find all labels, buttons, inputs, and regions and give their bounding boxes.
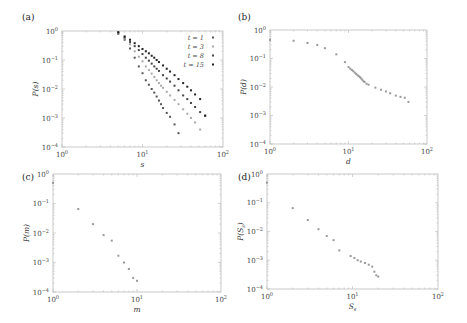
- data-point: [182, 94, 184, 96]
- panel-label: (c): [22, 172, 34, 182]
- y-axis-label: P(d): [239, 79, 248, 96]
- data-point: [177, 132, 179, 134]
- data-point: [153, 92, 155, 94]
- tick-label: 10−2: [42, 84, 58, 94]
- data-point: [190, 117, 192, 119]
- tick-label: 10−3: [250, 110, 266, 120]
- tick-label: 10−2: [250, 82, 266, 92]
- data-point: [186, 86, 188, 88]
- legend-marker: [212, 37, 214, 39]
- tick-label: 102: [421, 146, 433, 156]
- data-point: [158, 70, 160, 72]
- data-point: [134, 57, 136, 59]
- data-point: [142, 60, 144, 62]
- data-point: [190, 89, 192, 91]
- series-0: [266, 182, 379, 278]
- data-point: [123, 262, 125, 264]
- series-0: [52, 182, 138, 282]
- tick-label: 10−4: [250, 139, 266, 149]
- tick-label: 10−4: [42, 142, 58, 152]
- data-point: [138, 45, 140, 47]
- tick-label: 101: [342, 146, 354, 156]
- y-axis-label: P(Ss): [236, 222, 246, 242]
- data-point: [129, 47, 131, 49]
- data-point: [333, 239, 335, 241]
- data-point: [166, 91, 168, 93]
- data-point: [166, 78, 168, 80]
- panel-label: (a): [22, 12, 34, 22]
- legend-label: t = 15: [184, 61, 204, 69]
- data-point: [177, 78, 179, 80]
- tick-label: 10−3: [42, 113, 58, 123]
- plot-frame: [53, 174, 221, 292]
- tick-label: 100: [56, 149, 68, 159]
- data-point: [366, 83, 368, 85]
- data-point: [389, 92, 391, 94]
- data-point: [160, 85, 162, 87]
- tick-label: 10−1: [42, 55, 58, 65]
- data-point: [142, 53, 144, 55]
- tick-label: 10−2: [33, 228, 49, 238]
- tick-label: 100: [264, 146, 276, 156]
- data-point: [148, 60, 150, 62]
- tick-label: 101: [136, 149, 148, 159]
- data-point: [404, 97, 406, 99]
- data-point: [136, 280, 138, 282]
- panel-c: 10010110210010−110−210−310−4(c)mP(m): [22, 169, 227, 315]
- tick-label: 100: [47, 294, 59, 304]
- tick-label: 10−1: [250, 53, 266, 63]
- data-point: [364, 81, 366, 83]
- data-point: [156, 96, 158, 98]
- tick-label: 10−1: [33, 198, 49, 208]
- data-point: [266, 182, 268, 184]
- data-point: [145, 79, 147, 81]
- data-point: [326, 235, 328, 237]
- data-point: [357, 259, 359, 261]
- series-0: [117, 33, 179, 134]
- data-point: [77, 208, 79, 210]
- data-point: [375, 274, 377, 276]
- data-point: [153, 57, 155, 59]
- data-point: [174, 74, 176, 76]
- data-point: [371, 266, 373, 268]
- data-point: [162, 87, 164, 89]
- data-point: [368, 84, 370, 86]
- legend-marker: [212, 46, 214, 48]
- data-point: [204, 115, 206, 117]
- series-0: [269, 39, 409, 103]
- data-point: [190, 102, 192, 104]
- tick-label: 101: [131, 294, 143, 304]
- data-point: [338, 249, 340, 251]
- data-point: [151, 73, 153, 75]
- data-point: [129, 41, 131, 43]
- legend-label: t = 8: [188, 52, 204, 60]
- plot-frame: [267, 174, 438, 289]
- data-point: [145, 50, 147, 52]
- data-point: [385, 90, 387, 92]
- data-point: [350, 255, 352, 257]
- tick-label: 10−4: [33, 287, 49, 297]
- data-point: [324, 47, 326, 49]
- data-point: [316, 44, 318, 46]
- data-point: [158, 100, 160, 102]
- data-point: [151, 63, 153, 65]
- data-point: [307, 219, 309, 221]
- data-point: [317, 228, 319, 230]
- data-point: [52, 182, 54, 184]
- data-point: [293, 40, 295, 42]
- legend-marker: [212, 55, 214, 57]
- data-point: [344, 61, 346, 63]
- tick-label: 102: [432, 291, 444, 301]
- data-point: [117, 255, 119, 257]
- legend: t = 1t = 3t = 8t = 15: [184, 34, 214, 69]
- data-point: [142, 48, 144, 50]
- tick-label: 102: [215, 294, 227, 304]
- panel-label: (b): [238, 12, 251, 22]
- panel-a: 10010110210010−110−210−310−4(a)sP(s)t = …: [22, 12, 229, 169]
- data-point: [111, 240, 113, 242]
- data-point: [162, 107, 164, 109]
- data-point: [92, 223, 94, 225]
- tick-label: 10−3: [33, 257, 49, 267]
- data-point: [138, 56, 140, 58]
- data-point: [148, 69, 150, 71]
